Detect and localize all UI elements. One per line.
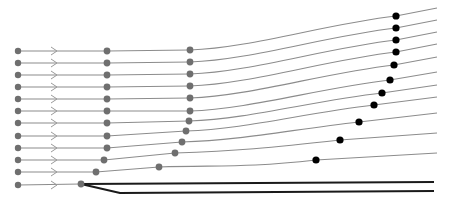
grey-node xyxy=(179,139,186,146)
black-node xyxy=(336,136,343,143)
black-node xyxy=(392,24,399,31)
trajectory-diagram xyxy=(0,0,453,202)
black-node xyxy=(370,101,377,108)
trajectory-line xyxy=(18,32,437,75)
grey-node xyxy=(104,108,111,115)
black-node xyxy=(390,61,397,68)
start-node xyxy=(15,108,21,114)
start-node xyxy=(15,96,21,102)
start-node xyxy=(15,120,21,126)
grey-node xyxy=(104,145,111,152)
start-node xyxy=(15,169,21,175)
black-node xyxy=(378,89,385,96)
start-node xyxy=(15,157,21,163)
black-node xyxy=(386,76,393,83)
direction-chevrons xyxy=(51,47,57,189)
black-node xyxy=(355,118,362,125)
grey-node xyxy=(172,150,179,157)
start-node xyxy=(15,182,21,188)
trajectory-line xyxy=(18,153,437,172)
start-node xyxy=(15,72,21,78)
trajectory-line xyxy=(18,133,437,160)
grey-node xyxy=(104,60,111,67)
grey-node xyxy=(186,118,193,125)
black-nodes xyxy=(312,12,399,163)
grey-node xyxy=(183,128,190,135)
grey-node xyxy=(187,83,194,90)
grey-node xyxy=(93,169,100,176)
grey-node xyxy=(187,71,194,78)
bottom-branch-lines xyxy=(81,182,434,193)
grey-node xyxy=(104,96,111,103)
grey-node xyxy=(187,95,194,102)
grey-node xyxy=(187,108,194,115)
grey-node xyxy=(187,47,194,54)
grey-node xyxy=(101,157,108,164)
start-node xyxy=(15,48,21,54)
start-node xyxy=(15,133,21,139)
lower-branch-line xyxy=(81,184,434,193)
trajectory-line xyxy=(18,8,437,51)
trajectory-line xyxy=(18,20,437,63)
start-node xyxy=(15,145,21,151)
black-node xyxy=(392,12,399,19)
grey-node xyxy=(104,120,111,127)
grey-node xyxy=(156,164,163,171)
trajectory-line xyxy=(18,184,81,185)
start-node xyxy=(15,84,21,90)
trajectory-lines xyxy=(18,8,437,185)
start-node xyxy=(15,60,21,66)
grey-node xyxy=(104,48,111,55)
branch-node xyxy=(78,181,85,188)
upper-branch-line xyxy=(81,182,434,184)
grey-node xyxy=(187,59,194,66)
black-node xyxy=(392,36,399,43)
black-node xyxy=(392,48,399,55)
grey-node xyxy=(104,84,111,91)
black-node xyxy=(312,156,319,163)
grey-node xyxy=(104,72,111,79)
grey-node xyxy=(104,133,111,140)
